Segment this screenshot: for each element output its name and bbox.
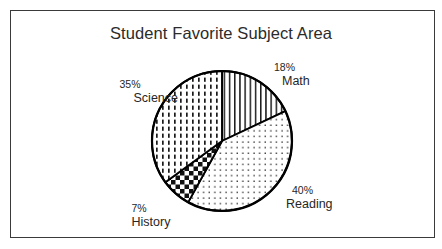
pie-label-math-name: Math	[272, 74, 358, 88]
pie-label-history-name: History	[104, 215, 200, 229]
pie-label-science-name: Science	[84, 91, 180, 105]
pie-label-math: 18% Math	[272, 62, 358, 88]
pie-label-reading: 40% Reading	[284, 185, 380, 211]
pie-label-history: 7% History	[104, 203, 200, 229]
pie-label-science: 35% Science	[84, 79, 180, 105]
pie-label-reading-name: Reading	[284, 197, 380, 211]
chart-screenshot: Student Favorite Subject Area	[0, 0, 442, 249]
pie-label-history-percent: 7%	[104, 203, 200, 215]
pie-chart-svg	[0, 0, 442, 249]
pie-chart-figure: 18% Math 35% Science 40% Reading 7% Hist…	[0, 0, 442, 249]
pie-label-reading-percent: 40%	[284, 185, 380, 197]
pie-label-math-percent: 18%	[272, 62, 358, 74]
pie-label-science-percent: 35%	[84, 79, 180, 91]
